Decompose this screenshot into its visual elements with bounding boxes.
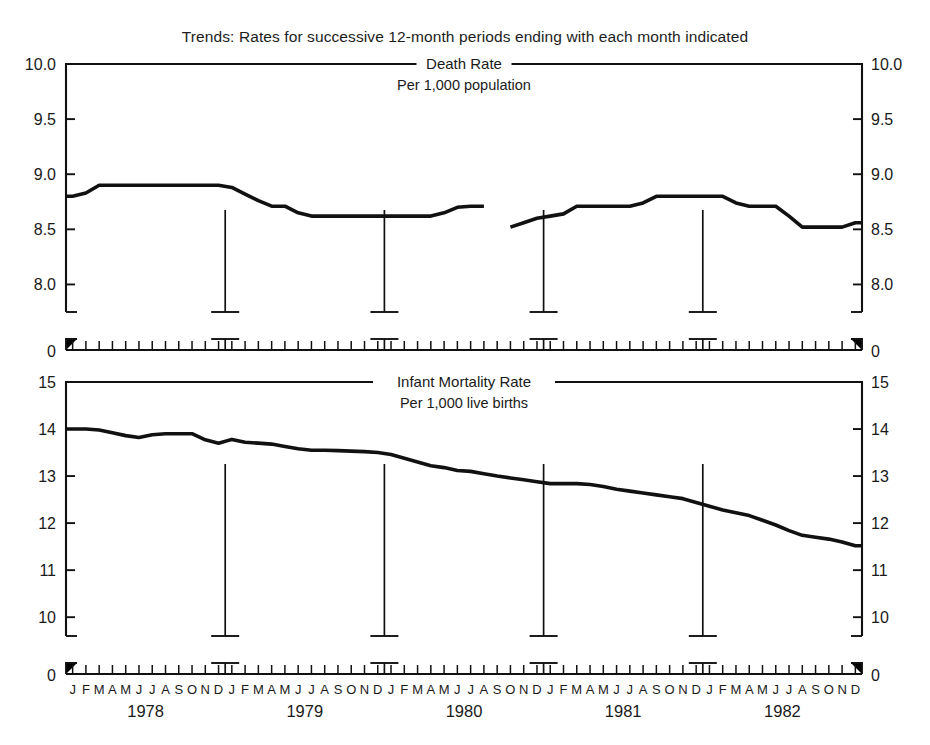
x-axis-year-label: 1978 [127,702,164,720]
x-axis-month-label: N [678,358,687,360]
x-axis-month-label: M [94,682,105,697]
x-axis-month-label: J [467,358,474,360]
x-axis-month-label: D [691,682,700,697]
chart-subtitle: Per 1,000 population [397,77,531,93]
x-axis-month-label: N [519,358,528,360]
x-axis-month-label: O [346,682,356,697]
x-axis-month-label: A [798,358,807,360]
x-axis-month-label: J [69,682,76,697]
x-axis-month-label: J [229,358,236,360]
y-axis-tick-label-right: 9.0 [871,166,893,183]
y-axis-tick-label-right: 9.5 [871,111,893,128]
x-axis-month-label: N [837,358,846,360]
x-axis-month-label: S [334,682,343,697]
y-axis-tick-label-left: 11 [39,562,56,579]
x-axis-month-label: D [373,358,382,360]
x-axis-month-label: J [308,682,315,697]
y-axis-zero-label-left: 0 [47,667,56,684]
y-axis-tick-label-left: 12 [38,515,56,532]
x-axis-month-label: F [82,682,90,697]
y-axis-tick-label-right: 14 [871,421,889,438]
x-axis-month-label: M [571,358,582,360]
x-axis-year-label: 1981 [605,702,642,720]
figure-root: Trends: Rates for successive 12-month pe… [0,0,930,745]
x-axis-month-label: J [149,682,156,697]
x-axis-month-label: S [652,682,661,697]
x-axis-month-label: M [120,358,131,360]
y-axis-tick-label-right: 13 [871,468,889,485]
x-axis-month-label: O [665,682,675,697]
x-axis-month-label: F [719,682,727,697]
x-axis-month-label: A [320,682,329,697]
data-series-line [66,429,862,546]
x-axis-month-label: A [745,682,754,697]
x-axis-month-label: J [136,358,143,360]
x-axis-year-label: 1979 [286,702,323,720]
x-axis-month-label: O [346,358,356,360]
x-axis-month-label: M [598,682,609,697]
x-axis-month-label: J [613,358,620,360]
y-axis-tick-label-right: 11 [871,562,888,579]
x-axis-month-label: J [295,682,302,697]
x-axis-month-label: J [786,358,793,360]
x-axis-month-label: M [94,358,105,360]
x-axis-month-label: J [706,358,713,360]
x-axis-month-label: M [120,682,131,697]
y-axis-tick-label-left: 8.0 [34,276,56,293]
x-axis-month-label: A [480,358,489,360]
x-axis-month-label: O [505,358,515,360]
x-axis-month-label: N [360,358,369,360]
x-axis-month-label: A [639,358,648,360]
x-axis-month-label: J [454,358,461,360]
x-axis-month-label: A [161,682,170,697]
x-axis-month-label: J [388,358,395,360]
x-axis-month-label: M [757,682,768,697]
x-axis-month-label: M [571,682,582,697]
x-axis-month-label: A [320,358,329,360]
x-axis-month-label: J [547,682,554,697]
x-axis-month-label: M [598,358,609,360]
x-axis-month-label: N [837,682,846,697]
x-axis-month-label: O [505,682,515,697]
x-axis-month-label: N [201,682,210,697]
chart-death-rate: Death RatePer 1,000 population8.08.08.58… [0,50,930,360]
x-axis-month-label: J [547,358,554,360]
x-axis-year-label: 1982 [764,702,801,720]
x-axis-month-label: O [824,682,834,697]
data-series-line [510,196,862,227]
x-axis-year-label: 1980 [446,702,483,720]
infant-mortality-plot: Infant Mortality RatePer 1,000 live birt… [0,368,930,745]
x-axis-month-label: J [786,682,793,697]
x-axis-month-label: M [412,358,423,360]
x-axis-month-label: D [214,682,223,697]
x-axis-month-label: F [82,358,90,360]
x-axis-month-label: S [811,682,820,697]
x-axis-month-label: D [691,358,700,360]
x-axis-month-label: M [253,358,264,360]
y-axis-tick-label-left: 13 [38,468,56,485]
y-axis-zero-label-right: 0 [871,667,880,684]
x-axis-month-label: M [439,682,450,697]
x-axis-month-label: J [149,358,156,360]
death-rate-plot: Death RatePer 1,000 population8.08.08.58… [0,50,930,360]
x-axis-month-label: F [241,682,249,697]
y-axis-tick-label-left: 14 [38,421,56,438]
x-axis-month-label: S [334,358,343,360]
data-series-line [66,185,484,216]
x-axis-month-label: A [108,682,117,697]
chart-title: Infant Mortality Rate [397,373,531,390]
y-axis-tick-label-right: 15 [871,374,889,391]
x-axis-month-label: J [627,682,634,697]
x-axis-month-label: J [69,358,76,360]
x-axis-month-label: M [412,682,423,697]
x-axis-month-label: S [493,682,502,697]
y-axis-tick-label-left: 15 [38,374,56,391]
x-axis-month-label: A [586,358,595,360]
x-axis-month-label: S [493,358,502,360]
y-axis-tick-label-left: 10 [38,609,56,626]
x-axis-month-label: M [253,682,264,697]
x-axis-month-label: D [532,358,541,360]
x-axis-month-label: A [426,682,435,697]
x-axis-month-label: O [824,358,834,360]
y-axis-tick-label-left: 10.0 [25,56,56,73]
